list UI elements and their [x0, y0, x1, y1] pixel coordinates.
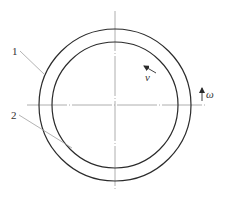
- ring-diagram: 1 2 v ω: [0, 0, 226, 199]
- callout-label-2: 2: [11, 109, 17, 121]
- callout-leader-1: [20, 51, 45, 75]
- callout-label-1: 1: [12, 45, 18, 57]
- callout-leader-2: [19, 115, 72, 148]
- velocity-label: v: [145, 71, 150, 83]
- angular-velocity-label: ω: [206, 88, 214, 100]
